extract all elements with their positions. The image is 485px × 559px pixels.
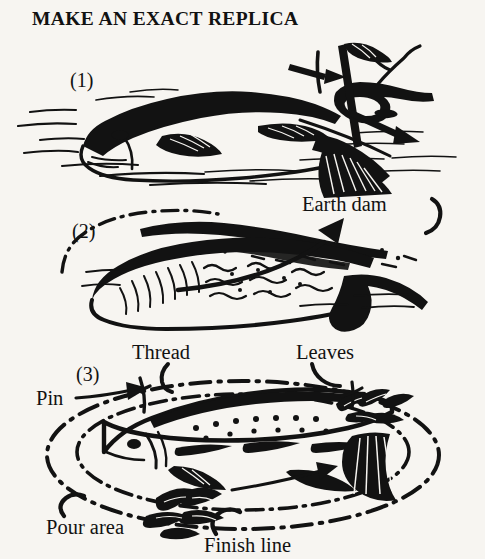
label-finish-line: Finish line (204, 535, 291, 556)
label-thread: Thread (132, 342, 190, 363)
step-number-3: (3) (76, 364, 99, 384)
step-number-1: (1) (70, 70, 93, 90)
label-pour-area: Pour area (46, 517, 124, 538)
panel-3-artwork (47, 364, 439, 539)
trout-head-panel3 (146, 434, 156, 468)
fish-jaw-panel1 (92, 157, 126, 160)
illustration-page: MAKE AN EXACT REPLICA (1) (2) (3) Earth … (0, 0, 485, 559)
step-number-2: (2) (72, 221, 95, 241)
mold-tail-panel2 (329, 274, 428, 331)
pour-area-debris (143, 487, 224, 539)
label-earth-dam: Earth dam (302, 194, 387, 215)
panel-2-artwork (62, 199, 440, 332)
panel-1-artwork (18, 43, 456, 198)
trout-eye-panel3 (127, 439, 141, 449)
mold-texture-squiggles (204, 263, 332, 299)
earth-dam-leader (426, 199, 440, 233)
leaves-leader (312, 364, 340, 386)
trout-flank-shading (175, 441, 364, 456)
fish-pectoral-fin-panel1 (156, 134, 222, 157)
fish-eye-panel1 (112, 131, 129, 140)
stick-barbs-panel1 (344, 43, 392, 63)
trout-mouth-panel3 (106, 452, 144, 460)
page-title: MAKE AN EXACT REPLICA (32, 9, 298, 29)
label-pin: Pin (36, 388, 63, 409)
label-leaves: Leaves (296, 342, 354, 363)
